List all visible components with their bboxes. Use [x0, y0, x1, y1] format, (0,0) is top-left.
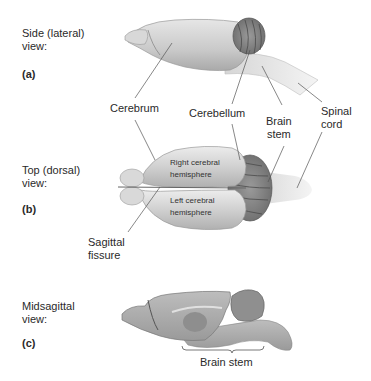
view-b-title-line1: Top (dorsal)	[22, 164, 80, 177]
view-a-title-line1: Side (lateral)	[22, 27, 84, 40]
label-spinal-cord-line2: cord	[321, 118, 352, 131]
view-a-title: Side (lateral) view:	[22, 27, 84, 53]
midsagittal-view-brain	[122, 290, 292, 353]
view-c-title: Midsagittal view:	[22, 300, 75, 326]
label-left-hemisphere-line2: hemisphere	[170, 207, 214, 219]
label-brain-stem-line1: Brain	[266, 115, 292, 128]
label-spinal-cord: Spinal cord	[321, 105, 352, 131]
view-b-letter: (b)	[22, 203, 36, 216]
label-cerebrum: Cerebrum	[110, 102, 159, 115]
label-cerebellum: Cerebellum	[189, 107, 245, 120]
label-spinal-cord-line1: Spinal	[321, 105, 352, 118]
label-sagittal-fissure-line2: fissure	[88, 249, 125, 262]
label-right-hemisphere: Right cerebral hemisphere	[170, 157, 220, 181]
view-b-title-line2: view:	[22, 177, 80, 190]
label-left-hemisphere: Left cerebral hemisphere	[170, 195, 214, 219]
view-a-title-line2: view:	[22, 40, 84, 53]
label-left-hemisphere-line1: Left cerebral	[170, 195, 214, 207]
view-c-title-line2: view:	[22, 313, 75, 326]
label-brain-stem-bracket: Brain stem	[200, 356, 253, 369]
side-view-brain	[125, 18, 318, 95]
label-right-hemisphere-line1: Right cerebral	[170, 157, 220, 169]
view-a-letter: (a)	[22, 68, 35, 81]
view-c-title-line1: Midsagittal	[22, 300, 75, 313]
label-right-hemisphere-line2: hemisphere	[170, 169, 220, 181]
view-b-title: Top (dorsal) view:	[22, 164, 80, 190]
label-brain-stem: Brain stem	[266, 115, 292, 141]
view-c-letter: (c)	[22, 337, 35, 350]
label-brain-stem-line2: stem	[266, 128, 292, 141]
label-sagittal-fissure-line1: Sagittal	[88, 236, 125, 249]
label-sagittal-fissure: Sagittal fissure	[88, 236, 125, 262]
